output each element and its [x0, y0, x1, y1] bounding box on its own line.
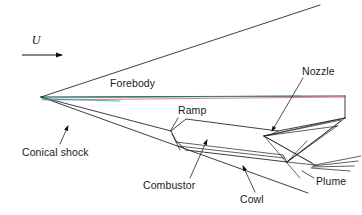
combustor-upper-wall [176, 142, 283, 155]
leader-lines-group [60, 78, 314, 192]
nozzle-fan-line-6 [264, 136, 300, 178]
plume-label: Plume [316, 175, 346, 187]
hypersonic-vehicle-diagram: U Forebody Conical shock Ramp Combustor … [0, 0, 362, 215]
cowl-label: Cowl [240, 193, 264, 205]
forebody-label: Forebody [110, 77, 156, 89]
plume-shear-line-3 [312, 166, 354, 167]
ramp-label: Ramp [178, 104, 206, 116]
combustor-leader [190, 140, 207, 178]
nozzle-fan-group [264, 118, 345, 178]
conical-shock-label: Conical shock [22, 146, 89, 158]
text-labels-group: U Forebody Conical shock Ramp Combustor … [22, 33, 346, 205]
combustor-duct-group [171, 131, 287, 162]
ramp-surface [171, 119, 278, 131]
plume-shear-line-4 [311, 168, 350, 171]
cowl-to-base-line-3 [287, 126, 337, 162]
cowl-leader [243, 166, 255, 192]
plume-group [287, 156, 361, 171]
forebody-lower-surface [41, 97, 171, 131]
cowl-outer-surface [186, 150, 287, 162]
nozzle-leader [272, 78, 303, 131]
plume-shear-line-1 [315, 156, 361, 165]
diagram-canvas: U Forebody Conical shock Ramp Combustor … [0, 0, 362, 215]
nozzle-fan-line-4 [264, 120, 341, 136]
conical-shock-leader [60, 126, 68, 144]
nozzle-label: Nozzle [302, 65, 335, 77]
plume-leader [302, 171, 314, 178]
plume-shear-line-2 [313, 161, 358, 166]
combustor-label: Combustor [143, 179, 196, 191]
upper-conical-shock-line [41, 5, 320, 97]
vehicle-body-group [41, 96, 345, 136]
freestream-velocity-label: U [32, 33, 42, 47]
